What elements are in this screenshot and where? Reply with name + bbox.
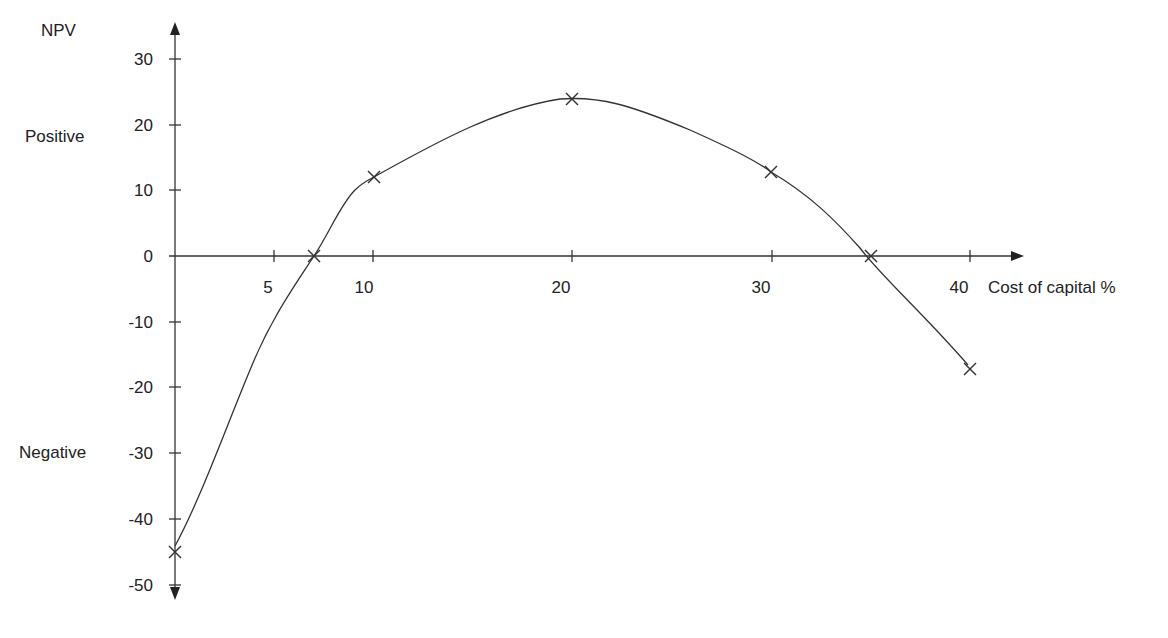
data-markers: [169, 93, 976, 558]
x-tick-label: 40: [950, 278, 969, 297]
y-tick-label: -30: [128, 444, 153, 463]
x-tick-label: 5: [263, 278, 272, 297]
y-tick-label: 10: [134, 181, 153, 200]
x-tick-labels: 5 10 20 30 40: [263, 278, 968, 297]
y-axis: [169, 22, 181, 600]
y-tick-label: 20: [134, 116, 153, 135]
y-tick-label: -40: [128, 510, 153, 529]
y-axis-arrow-down-icon: [170, 587, 180, 600]
x-axis-title: Cost of capital %: [988, 278, 1116, 297]
y-tick-labels: 30 20 10 0 -10 -20 -30 -40 -50: [128, 50, 153, 595]
y-axis-title: NPV: [41, 21, 77, 40]
x-tick-label: 20: [552, 278, 571, 297]
y-tick-label: 30: [134, 50, 153, 69]
x-tick-label: 30: [752, 278, 771, 297]
y-tick-label: -50: [128, 576, 153, 595]
y-axis-arrow-up-icon: [170, 22, 180, 35]
negative-region-label: Negative: [19, 443, 86, 462]
npv-chart: 30 20 10 0 -10 -20 -30 -40 -50 5 10 20 3…: [0, 0, 1168, 638]
y-tick-label: -10: [128, 313, 153, 332]
y-tick-label: 0: [144, 247, 153, 266]
y-tick-label: -20: [128, 378, 153, 397]
x-marker-icon: [765, 166, 777, 178]
x-marker-icon: [964, 363, 976, 375]
x-tick-label: 10: [355, 278, 374, 297]
positive-region-label: Positive: [25, 127, 85, 146]
x-axis-arrow-right-icon: [1011, 251, 1024, 261]
x-marker-icon: [368, 171, 380, 183]
npv-curve: [175, 98, 968, 546]
x-axis: [169, 250, 1024, 262]
